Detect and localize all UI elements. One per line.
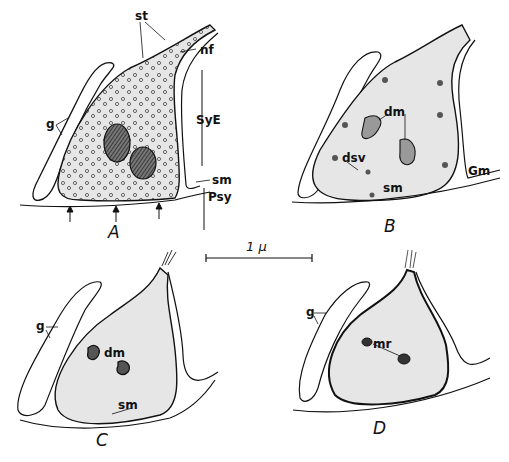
mitochondrion-d1 bbox=[362, 338, 372, 346]
label-dm-c: dm bbox=[104, 346, 125, 360]
mitochondrion-c2 bbox=[117, 361, 129, 375]
label-g-d: g bbox=[306, 305, 315, 319]
panel-label-a: A bbox=[107, 222, 120, 242]
scale-bar: 1 μ bbox=[206, 239, 312, 262]
label-dsv: dsv bbox=[342, 151, 366, 165]
scale-bar-label: 1 μ bbox=[246, 239, 267, 254]
panel-a: st nf g SyE sm Psy A bbox=[20, 9, 232, 242]
label-st: st bbox=[135, 9, 148, 23]
label-sye: SyE bbox=[196, 113, 221, 127]
panel-b: dm dsv sm Gm B bbox=[292, 25, 500, 236]
label-sm-a: sm bbox=[212, 173, 232, 187]
label-psy: Psy bbox=[208, 190, 232, 204]
label-sm-c: sm bbox=[118, 398, 138, 412]
panel-label-d: D bbox=[373, 418, 386, 438]
panel-label-b: B bbox=[384, 216, 396, 236]
label-sm-b: sm bbox=[383, 181, 403, 195]
mitochondrion-c1 bbox=[88, 346, 99, 360]
label-mr: mr bbox=[373, 337, 392, 351]
figure-canvas: st nf g SyE sm Psy A dm dsv sm Gm B 1 μ bbox=[0, 0, 509, 462]
label-g-c: g bbox=[36, 319, 45, 333]
panel-c: g dm sm C bbox=[18, 250, 218, 450]
mitochondrion-a1 bbox=[104, 124, 130, 162]
panel-label-c: C bbox=[96, 430, 108, 450]
label-nf: nf bbox=[200, 43, 215, 57]
label-g-a: g bbox=[46, 117, 55, 131]
panel-d: g mr D bbox=[293, 250, 490, 438]
label-dm-b: dm bbox=[384, 105, 405, 119]
label-gm: Gm bbox=[468, 164, 490, 178]
mitochondrion-a2 bbox=[130, 147, 156, 179]
